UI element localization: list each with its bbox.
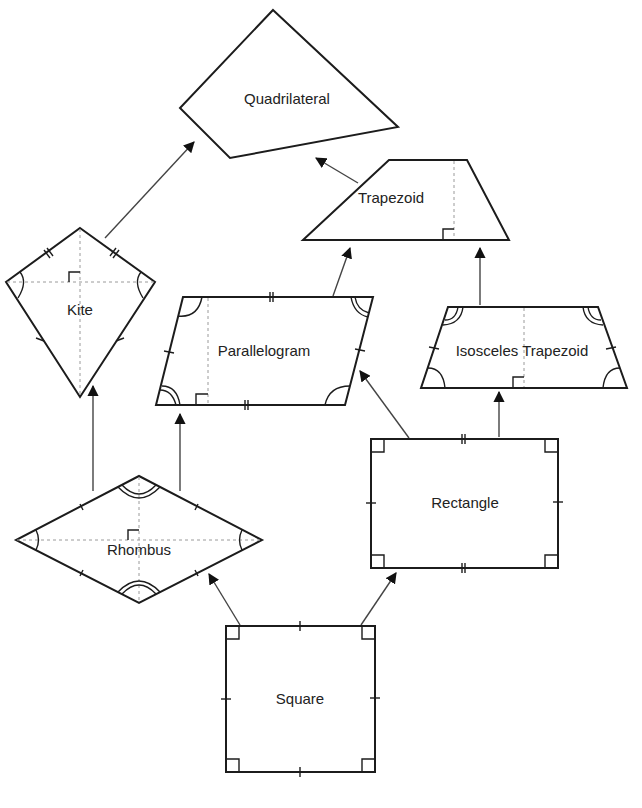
arrow-square-to-rectangle xyxy=(361,573,396,625)
node-isosceles-trapezoid: Isosceles Trapezoid xyxy=(421,307,627,388)
arrow-rectangle-to-parallelogram xyxy=(360,371,409,438)
rectangle-label: Rectangle xyxy=(431,494,499,511)
node-trapezoid: Trapezoid xyxy=(303,160,509,240)
node-parallelogram: Parallelogram xyxy=(156,292,373,410)
arrow-trapezoid-to-quadrilateral xyxy=(316,158,358,183)
quadrilateral-shape xyxy=(180,10,398,158)
kite-label: Kite xyxy=(67,301,93,318)
node-rectangle: Rectangle xyxy=(366,434,563,573)
arrow-kite-to-quadrilateral xyxy=(105,142,194,238)
quadrilateral-hierarchy-diagram: Quadrilateral Trapezoid Kite xyxy=(0,0,642,808)
node-square: Square xyxy=(221,621,380,777)
parallelogram-label: Parallelogram xyxy=(218,342,311,359)
quadrilateral-label: Quadrilateral xyxy=(244,90,330,107)
node-kite: Kite xyxy=(6,228,155,397)
node-rhombus: Rhombus xyxy=(16,476,262,603)
arrow-square-to-rhombus xyxy=(209,574,240,625)
square-label: Square xyxy=(276,690,324,707)
rhombus-label: Rhombus xyxy=(107,541,171,558)
node-quadrilateral: Quadrilateral xyxy=(180,10,398,158)
arrow-parallelogram-to-trapezoid xyxy=(333,248,350,296)
trapezoid-label: Trapezoid xyxy=(358,189,424,206)
isosceles-trapezoid-label: Isosceles Trapezoid xyxy=(456,342,589,359)
